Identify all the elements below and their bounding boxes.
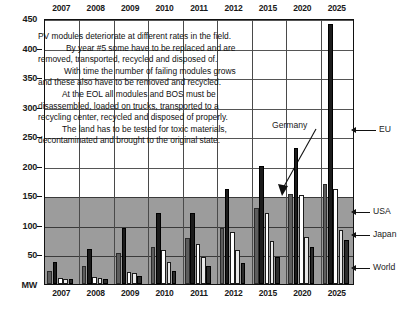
narrative-line: removed, transported, recycled and dispo… — [38, 54, 288, 66]
bar-world-2007 — [69, 279, 74, 284]
callout-label: EU — [379, 124, 391, 134]
narrative-line: recycling center, recycled and disposed … — [38, 112, 288, 124]
x-axis-label: 2025 — [328, 288, 346, 298]
bar-usa-2012 — [230, 232, 235, 284]
y-axis-label: 100 — [23, 221, 37, 231]
bar-germany-2015 — [259, 166, 264, 284]
callout-label: Japan — [373, 229, 396, 239]
bar-world-2015 — [275, 257, 280, 284]
y-axis-tick — [37, 255, 42, 256]
top-year-label: 2009 — [121, 3, 139, 13]
narrative-line: The land has to be tested for toxic mate… — [38, 124, 288, 136]
bar-usa-2009 — [127, 272, 132, 284]
narrative-line: decontaminated and brought to the origin… — [38, 135, 288, 147]
bar-eu-2009 — [116, 253, 121, 284]
x-axis-label: 2020 — [293, 288, 311, 298]
bar-japan-2012 — [235, 250, 240, 284]
narrative-line: With time the number of failing modules … — [38, 66, 288, 78]
bar-world-2020 — [310, 247, 315, 284]
y-axis-label: 250 — [23, 132, 37, 142]
bar-eu-2015 — [254, 208, 259, 284]
x-axis-label: 2012 — [224, 288, 242, 298]
callout-leader-line — [356, 212, 370, 213]
top-year-label: 2008 — [87, 3, 105, 13]
x-axis-label: 2015 — [259, 288, 277, 298]
bar-world-2011 — [206, 266, 211, 284]
y-axis-tick — [37, 226, 42, 227]
top-year-label: 2011 — [190, 3, 208, 13]
top-year-label: 2020 — [293, 3, 311, 13]
narrative-line: At the EOL all modules and BOS must be — [38, 89, 288, 101]
bar-germany-2009 — [122, 228, 127, 284]
x-axis-label: 2008 — [87, 288, 105, 298]
top-year-label: 2012 — [224, 3, 242, 13]
bar-eu-2010 — [151, 247, 156, 284]
x-axis: 200720082009201020112012201520202025 — [44, 288, 354, 304]
y-axis-label: 400 — [23, 44, 37, 54]
y-axis-label: 200 — [23, 162, 37, 172]
y-axis-label: MW — [21, 280, 37, 290]
x-axis-label: 2007 — [52, 288, 70, 298]
chart-root: 200720082009201020112012201520202025 MW5… — [0, 0, 404, 317]
y-axis: MW50100150200250300350400450 — [0, 19, 42, 285]
y-axis-label: 350 — [23, 73, 37, 83]
x-axis-label: 2010 — [155, 288, 173, 298]
bar-world-2008 — [103, 279, 108, 284]
bar-japan-2020 — [304, 237, 309, 284]
callout-arrow-icon — [351, 209, 356, 215]
bar-eu-2008 — [82, 266, 87, 284]
gridline — [45, 20, 353, 21]
callout-arrow-icon — [351, 265, 356, 271]
bar-usa-2011 — [196, 244, 201, 284]
bar-germany-2008 — [87, 249, 92, 284]
y-axis-label: 450 — [23, 14, 37, 24]
bar-usa-2025 — [333, 189, 338, 284]
callout-leader-line — [356, 235, 370, 236]
y-axis-label: 150 — [23, 191, 37, 201]
bar-germany-2007 — [53, 262, 58, 284]
callout-label: World — [373, 262, 395, 272]
callout-arrow-icon — [351, 127, 356, 133]
y-axis-label: 50 — [27, 250, 37, 260]
narrative-line: PV modules deteriorate at different rate… — [38, 31, 288, 43]
bar-japan-2009 — [132, 273, 137, 284]
bar-usa-2008 — [92, 277, 97, 284]
narrative-line: and these also have to be removed and re… — [38, 77, 288, 89]
bar-usa-2007 — [58, 278, 63, 284]
top-year-label: 2025 — [328, 3, 346, 13]
gridline — [45, 227, 353, 228]
bar-japan-2011 — [201, 257, 206, 284]
bar-world-2012 — [241, 263, 246, 284]
bar-germany-2012 — [225, 189, 230, 284]
bar-japan-2010 — [167, 262, 172, 284]
top-year-axis: 200720082009201020112012201520202025 — [44, 3, 354, 17]
bar-japan-2008 — [98, 278, 103, 285]
narrative-line: disassembled, loaded on trucks, transpor… — [38, 101, 288, 113]
x-axis-label: 2011 — [190, 288, 208, 298]
bar-japan-2015 — [270, 241, 275, 284]
bar-eu-2025 — [323, 184, 328, 284]
bar-usa-2020 — [299, 195, 304, 284]
bar-japan-2025 — [339, 230, 344, 284]
bar-germany-2011 — [190, 213, 195, 284]
narrative-text-block: PV modules deteriorate at different rate… — [38, 31, 288, 147]
bar-usa-2010 — [161, 250, 166, 284]
bar-germany-2025 — [328, 24, 333, 284]
callout-leader-line — [356, 268, 370, 269]
callout-label: USA — [373, 206, 391, 216]
bar-eu-2012 — [220, 228, 225, 284]
bar-eu-2020 — [288, 194, 293, 284]
bar-eu-2011 — [185, 238, 190, 284]
bar-germany-2020 — [294, 148, 299, 284]
bar-eu-2007 — [47, 271, 52, 284]
top-year-label: 2007 — [52, 3, 70, 13]
callout-leader-line — [356, 130, 376, 131]
bar-world-2025 — [344, 240, 349, 284]
x-axis-label: 2009 — [121, 288, 139, 298]
y-axis-tick — [37, 167, 42, 168]
top-year-label: 2015 — [259, 3, 277, 13]
bar-japan-2007 — [63, 279, 68, 284]
top-year-label: 2010 — [155, 3, 173, 13]
narrative-line: By year #5 some have to be replaced and … — [38, 43, 288, 55]
bar-world-2009 — [137, 276, 142, 284]
